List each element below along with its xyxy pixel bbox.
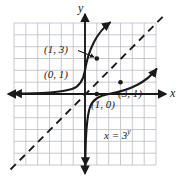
axis-label-y: y xyxy=(78,2,83,14)
label-point-0-1: (0, 1) xyxy=(44,69,68,80)
graph-figure: (1, 3) (0, 1) (1, 0) (3, 1) x y x = 3y xyxy=(0,0,187,182)
equation-base-text: x = 3 xyxy=(104,129,127,141)
label-point-1-3: (1, 3) xyxy=(44,44,68,55)
label-point-3-1: (3, 1) xyxy=(118,88,142,99)
equation-exponent-text: y xyxy=(127,127,130,136)
axis-label-x: x xyxy=(170,87,175,99)
point-marker-1-3 xyxy=(95,56,100,61)
point-marker-3-1 xyxy=(118,80,123,85)
leader-arrow-1-3 xyxy=(78,51,94,58)
label-point-1-0: (1, 0) xyxy=(91,99,115,110)
graph-canvas xyxy=(0,0,187,182)
equation-label: x = 3y xyxy=(104,130,131,141)
point-marker-1-0 xyxy=(95,92,100,97)
